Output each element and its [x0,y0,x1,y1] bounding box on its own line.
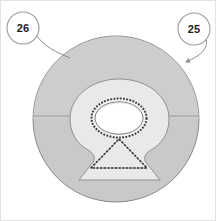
aperture-ellipse [95,102,143,134]
patent-figure: 26 25 [0,0,216,221]
callout-26[interactable]: 26 [7,12,70,58]
figure-canvas: 26 25 [0,0,216,221]
callout-26-label: 26 [17,22,30,34]
callout-25[interactable]: 25 [178,13,210,62]
callout-25-label: 25 [188,23,201,35]
